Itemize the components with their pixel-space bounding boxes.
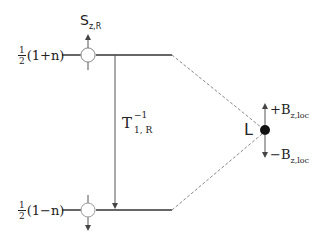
transition-label-main: T bbox=[122, 114, 132, 132]
frac-den: 2 bbox=[19, 211, 25, 221]
ligand-dot bbox=[260, 125, 270, 135]
transition-label-sub: 1, R bbox=[134, 126, 152, 135]
upper-level-expr: (1+n) bbox=[27, 48, 65, 63]
field-up-sub: z,loc bbox=[290, 111, 309, 120]
field-up-sign: +B bbox=[270, 102, 290, 117]
lower-spin-circle bbox=[81, 203, 95, 217]
lower-level-label: 12(1−n) bbox=[18, 201, 64, 221]
spin-label-sub: z,R bbox=[89, 22, 101, 31]
frac-num: 1 bbox=[18, 201, 26, 211]
spin-label-main: S bbox=[80, 12, 89, 28]
frac-den: 2 bbox=[19, 56, 25, 66]
transition-label: T −1 1, R bbox=[122, 116, 132, 131]
ligand-label: L bbox=[244, 122, 253, 138]
field-down-sub: z,loc bbox=[290, 156, 309, 165]
frac-num: 1 bbox=[18, 46, 26, 56]
field-down-label: −Bz,loc bbox=[270, 148, 309, 165]
lower-level-expr: (1−n) bbox=[27, 203, 65, 218]
field-down-sign: −B bbox=[270, 147, 290, 162]
spin-label: Sz,R bbox=[80, 13, 101, 31]
transition-label-sup: −1 bbox=[134, 111, 147, 120]
dashed-line-upper bbox=[172, 55, 262, 128]
dashed-line-lower bbox=[172, 134, 262, 210]
field-up-label: +Bz,loc bbox=[270, 103, 309, 120]
upper-level-label: 12(1+n) bbox=[18, 46, 64, 66]
